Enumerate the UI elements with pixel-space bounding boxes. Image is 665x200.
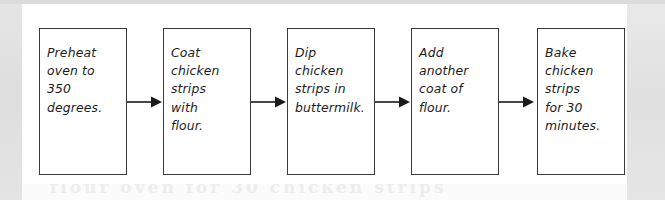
ghost-text-strip: flour oven for 30 chicken strips: [22, 184, 627, 200]
arrow-right-icon-4: [499, 94, 535, 108]
flowchart-step-1[interactable]: Preheat oven to 350 degrees.: [39, 28, 127, 175]
scanned-page-frame: flour oven for 30 chicken strips Preheat…: [0, 0, 665, 200]
flowchart-step-2-label: Coat chicken strips with flour.: [171, 44, 247, 135]
flowchart-step-3[interactable]: Dip chicken strips in buttermilk.: [287, 28, 375, 175]
arrow-right-icon-1: [127, 94, 163, 108]
flowchart-step-4-label: Add another coat of flour.: [419, 44, 495, 117]
flowchart-step-2[interactable]: Coat chicken strips with flour.: [163, 28, 251, 175]
page-margin-right: [627, 0, 665, 200]
flowchart-step-4[interactable]: Add another coat of flour.: [411, 28, 499, 175]
page-margin-left: [0, 0, 22, 200]
arrow-right-icon-2: [251, 94, 287, 108]
flowchart-step-5-label: Bake chicken strips for 30 minutes.: [545, 44, 621, 135]
flowchart: Preheat oven to 350 degrees. Coat chicke…: [22, 4, 627, 186]
flowchart-step-3-label: Dip chicken strips in buttermilk.: [295, 44, 371, 117]
flowchart-step-5[interactable]: Bake chicken strips for 30 minutes.: [537, 28, 625, 175]
flowchart-step-1-label: Preheat oven to 350 degrees.: [47, 44, 123, 117]
arrow-right-icon-3: [375, 94, 411, 108]
